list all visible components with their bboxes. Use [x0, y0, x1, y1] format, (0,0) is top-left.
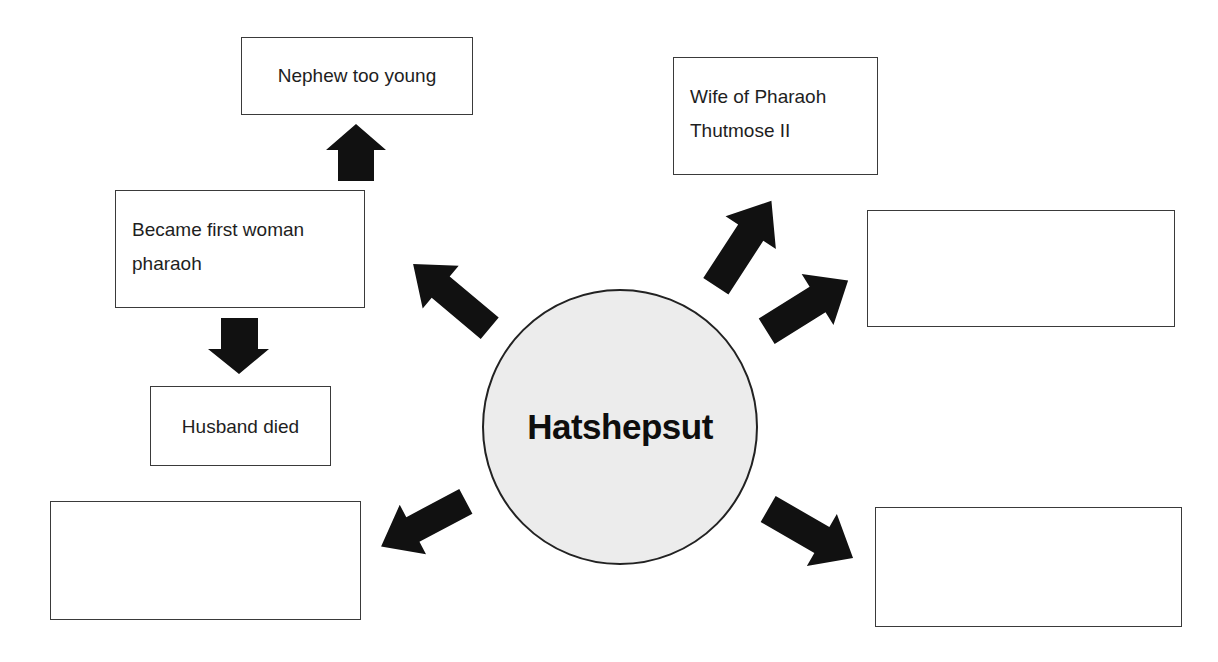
box-husband-died: Husband died [150, 386, 331, 466]
box-text: Husband died [151, 410, 330, 444]
box-empty-right[interactable] [867, 210, 1175, 327]
box-empty-bottom-left[interactable] [50, 501, 361, 620]
center-circle: Hatshepsut [482, 289, 758, 565]
arrow-up-left-icon [395, 243, 508, 350]
arrow-down-left-icon [368, 477, 479, 572]
arrow-down-icon [208, 318, 269, 374]
box-became-first-woman-pharaoh: Became first woman pharaoh [115, 190, 365, 308]
box-text: Wife of Pharaoh Thutmose II [690, 80, 877, 148]
box-nephew-too-young: Nephew too young [241, 37, 473, 115]
center-title: Hatshepsut [527, 407, 713, 447]
arrow-down-right-icon [753, 483, 868, 584]
box-text: Nephew too young [242, 59, 472, 93]
box-wife-of-pharaoh: Wife of Pharaoh Thutmose II [673, 57, 878, 175]
box-empty-bottom-right[interactable] [875, 507, 1182, 627]
arrow-up-right-icon [691, 184, 797, 302]
arrow-up-icon [326, 124, 386, 181]
arrow-up-right-icon [751, 255, 864, 357]
box-text: Became first woman pharaoh [132, 213, 364, 281]
